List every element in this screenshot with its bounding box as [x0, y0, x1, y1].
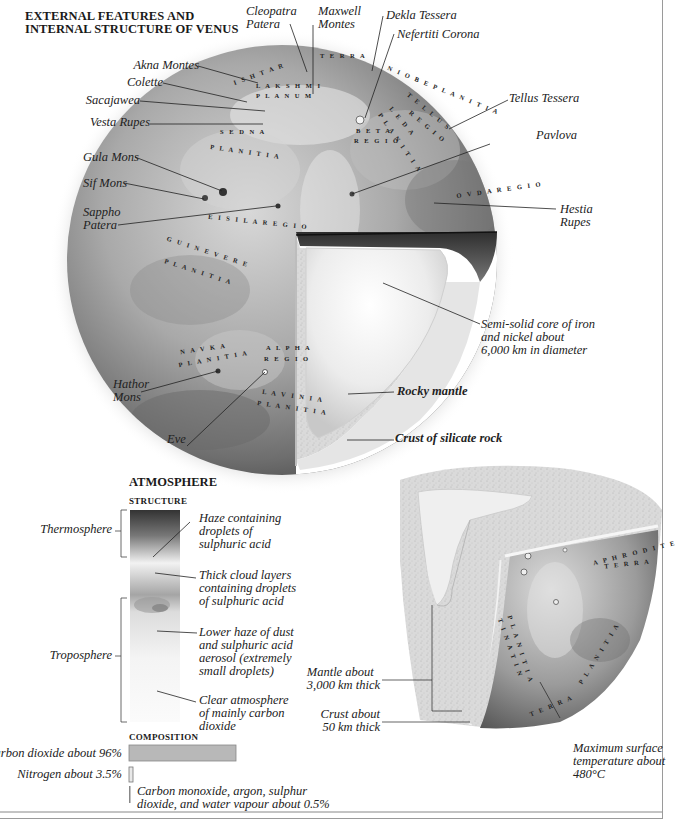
- bar-trace-gases: [129, 786, 131, 803]
- atmosphere-heading: ATMOSPHERE: [129, 475, 217, 490]
- label-crust-silicate: Crust of silicate rock: [395, 432, 502, 445]
- composition-heading: COMPOSITION: [129, 732, 198, 742]
- label-tellus-tessera: Tellus Tessera: [509, 92, 579, 105]
- label-trace-gases: Carbon monoxide, argon, sulphurdioxide, …: [137, 785, 330, 811]
- bar-carbon-dioxide: [129, 745, 236, 761]
- map-beta-1: B E T A: [356, 127, 392, 134]
- label-nitrogen: Nitrogen about 3.5%: [17, 768, 122, 781]
- label-akna-montes: Akna Montes: [133, 59, 199, 72]
- note-clear: Clear atmosphereof mainly carbondioxide: [199, 694, 288, 733]
- map-terra: T E R R A: [320, 52, 367, 59]
- label-sacajawea: Sacajawea: [86, 94, 140, 107]
- map-planum: P L A N U M: [256, 92, 313, 99]
- label-core: Semi-solid core of ironand nickel about6…: [481, 318, 595, 357]
- label-eve: Eve: [167, 433, 186, 446]
- atmosphere-column: [130, 510, 180, 722]
- label-hathor-mons: HathorMons: [113, 378, 149, 404]
- label-vesta-rupes: Vesta Rupes: [90, 116, 150, 129]
- label-troposphere: Troposphere: [50, 649, 112, 662]
- label-gula-mons: Gula Mons: [83, 151, 139, 164]
- label-mantle-thickness: Mantle about3,000 km thick: [307, 666, 380, 692]
- label-thermosphere: Thermosphere: [40, 523, 112, 536]
- label-dekla-tessera: Dekla Tessera: [386, 9, 457, 22]
- bar-nitrogen: [129, 767, 133, 782]
- label-crust-thickness: Crust about50 km thick: [321, 708, 380, 734]
- note-clouds: Thick cloud layerscontaining dropletsof …: [199, 569, 296, 608]
- label-surface-temperature: Maximum surfacetemperature about480°C: [573, 742, 665, 781]
- label-pavlova: Pavlova: [536, 129, 577, 142]
- label-sappho-patera: SapphoPatera: [83, 206, 121, 232]
- structure-heading: STRUCTURE: [129, 496, 187, 506]
- map-alpha-1: A L P H A: [266, 344, 312, 351]
- map-sedna-1: S E D N A: [220, 128, 266, 135]
- label-maxwell-montes: MaxwellMontes: [318, 5, 361, 31]
- label-rocky-mantle: Rocky mantle: [397, 385, 467, 398]
- label-co2: Carbon dioxide about 96%: [0, 747, 122, 760]
- label-cleopatra-patera: CleopatraPatera: [246, 5, 297, 31]
- note-lower-haze: Lower haze of dustand sulphuric acidaero…: [199, 626, 294, 678]
- map-lakshmi: L A K S H M I: [256, 82, 322, 89]
- map-beta-2: R E G I O: [354, 137, 400, 144]
- label-hestia-rupes: HestiaRupes: [560, 203, 593, 229]
- label-colette: Colette: [127, 76, 163, 89]
- map-alpha-2: R E G I O: [264, 355, 310, 362]
- label-sif-mons: Sif Mons: [83, 177, 127, 190]
- note-haze: Haze containingdroplets ofsulphuric acid: [199, 512, 281, 551]
- label-nefertiti-corona: Nefertiti Corona: [397, 28, 480, 41]
- cutaway-quarter: [400, 466, 662, 729]
- atmosphere-brackets: [115, 510, 127, 722]
